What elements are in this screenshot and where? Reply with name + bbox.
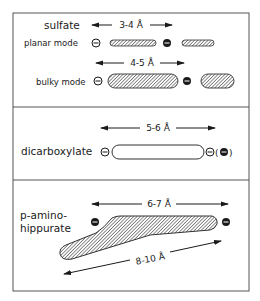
- svg-text:(: (: [215, 148, 219, 158]
- dicarboxylate-rod-shape: [112, 145, 204, 159]
- dimension-label-dicarboxylate: 5-6 Å: [146, 122, 171, 133]
- panel-p-aminohippurate: 6-7 Å p-amino- hippurate 8-10 Å: [20, 198, 230, 274]
- panel-title-line1: p-amino-: [20, 209, 67, 221]
- row-label-bulky: bulky mode: [36, 77, 86, 87]
- planar-rod-shape: [110, 40, 156, 46]
- panel-dicarboxylate: 5-6 Å dicarboxylate ( ): [21, 122, 233, 159]
- dimension-label-sulfate: 3-4 Å: [119, 19, 144, 30]
- row-label-planar: planar mode: [24, 38, 78, 48]
- diagonal-arrow-right: [170, 241, 221, 252]
- figure-svg: sulfate 3-4 Å planar mode 4-5 Å bulky mo…: [0, 0, 260, 301]
- panel-title-line2: hippurate: [20, 222, 71, 234]
- diagonal-arrow-left: [64, 260, 130, 274]
- anion-geometry-figure: sulfate 3-4 Å planar mode 4-5 Å bulky mo…: [0, 0, 260, 301]
- panel-title-dicarboxylate: dicarboxylate: [21, 145, 92, 157]
- dimension-label-top: 6-7 Å: [147, 198, 172, 209]
- planar-rod-shape-small: [182, 40, 214, 46]
- panel-sulfate: sulfate 3-4 Å planar mode 4-5 Å bulky mo…: [24, 19, 234, 88]
- dimension-label-bulky: 4-5 Å: [130, 57, 155, 68]
- dimension-label-diagonal: 8-10 Å: [135, 250, 167, 267]
- panel-title-sulfate: sulfate: [44, 19, 80, 31]
- svg-text:): ): [229, 148, 233, 158]
- bulky-rod-shape-small: [201, 74, 234, 88]
- bulky-rod-shape: [108, 74, 178, 88]
- hippurate-wedge-shape: [60, 216, 217, 259]
